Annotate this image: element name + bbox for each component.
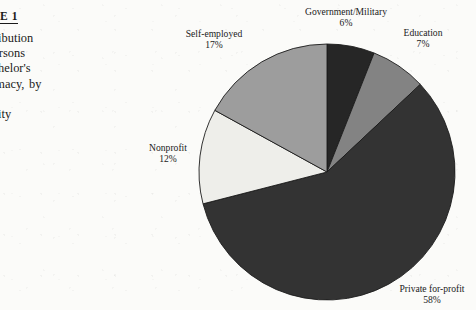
figure-page: E 1 tage Distribution ployed Persons nly… <box>0 0 476 310</box>
pie-slice-label-name: Nonprofit <box>149 142 187 153</box>
pie-slice-label: Education7% <box>392 27 454 50</box>
pie-slice-label-name: Self-employed <box>186 28 242 39</box>
pie-slice-label-name: Education <box>404 27 443 38</box>
pie-slice-label-value: 6% <box>291 17 401 28</box>
pie-slice-label: Nonprofit12% <box>140 142 196 165</box>
pie-slice-label-value: 12% <box>140 153 196 164</box>
pie-slice-label-name: Government/Military <box>305 6 387 17</box>
pie-slice-label: Government/Military6% <box>291 6 401 29</box>
pie-slice-label-value: 7% <box>392 38 454 49</box>
pie-slice-label: Private for-profit58% <box>388 283 476 306</box>
pie-slice-label: Self-employed17% <box>178 28 250 51</box>
pie-slice-group <box>199 44 455 300</box>
pie-slice-label-value: 58% <box>388 294 476 305</box>
pie-slice-label-value: 17% <box>178 39 250 50</box>
pie-chart: Government/Military6%Education7%Self-emp… <box>0 0 476 310</box>
pie-slice-label-name: Private for-profit <box>399 283 464 294</box>
